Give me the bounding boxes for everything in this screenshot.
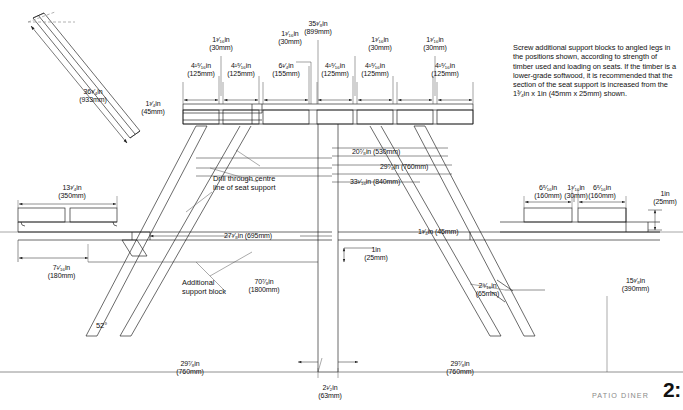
dim-label-diagonal-plank: 36³⁄₄in (933mm) (63, 88, 123, 105)
footer-page-number: 2: (663, 378, 681, 402)
seat-slats-right (500, 208, 660, 232)
dim-label-gap-30-c: 1³⁄₁₆in (30mm) (355, 36, 405, 53)
dim-label-support-block-65: 2⁹⁄₁₆in (65mm) (460, 282, 515, 299)
dim-label-seat-width-350: 13³⁄₄in (350mm) (42, 184, 102, 201)
dim-label-brace-760-mid: 29⁷⁄₈in (760mm) (380, 163, 428, 171)
dim-label-seat-height-390: 15³⁄₈in (390mm) (608, 277, 663, 294)
dim-label-overhang-180: 7¹⁄₁₆in (180mm) (34, 264, 89, 281)
construction-note: Screw additional support blocks to angle… (513, 43, 679, 99)
callout-drill-centre-line: Drill through centre line of seat suppor… (213, 174, 275, 192)
dim-label-25mm-right: 1in (25mm) (645, 190, 683, 207)
angled-leg-left (86, 126, 207, 336)
dim-base-row (0, 358, 683, 378)
dim-label-gap-30-b: 1³⁄₁₆in (30mm) (265, 30, 315, 47)
dim-label-gap-30-d: 1³⁄₁₆in (30mm) (410, 36, 460, 53)
detached-diagonal-plank (28, 12, 140, 138)
seat-slats-left (18, 208, 150, 232)
dim-label-seat-support-45: 1³⁄₄in (45mm) (418, 228, 458, 236)
dim-label-25mm-left: 1in (25mm) (356, 246, 396, 263)
dim-label-brace-840: 33¹⁄₁₆in (840mm) (350, 178, 400, 186)
tabletop-slats (183, 104, 473, 124)
dim-label-slat-125-d: 4¹⁵⁄₁₆in (125mm) (350, 62, 400, 79)
dim-label-base-760-right: 29⁷⁄₈in (760mm) (430, 360, 490, 377)
dim-label-slat-125-e: 4¹⁵⁄₁₆in (125mm) (420, 62, 470, 79)
diagonal-plank-dimension-line (31, 26, 127, 143)
dim-overhang-180 (18, 240, 88, 262)
dim-label-slat-125-b: 4¹⁵⁄₁₆in (125mm) (216, 62, 266, 79)
dim-25mm-right (648, 210, 662, 230)
angled-leg-left-inner (120, 126, 251, 336)
footer-brand: PATIO DINER (592, 391, 649, 400)
angle-label-52: 52° (96, 322, 107, 330)
dim-label-base-760-left: 29⁷⁄₈in (760mm) (160, 360, 220, 377)
dim-label-slat-155: 6¹⁄₄in (155mm) (261, 62, 311, 79)
callout-additional-support-block: Additional support block (182, 278, 226, 296)
dim-label-leg-width-63: 2¹⁄₂in (63mm) (300, 384, 360, 401)
dim-label-top-slat-thickness: 1³⁄₄in (45mm) (128, 100, 178, 117)
callout-leaders (186, 150, 505, 290)
dim-label-leg-spread-1800: 70⁷⁄₈in (1800mm) (234, 278, 294, 295)
dim-label-seat-support-695: 27³⁄₈in (695mm) (224, 232, 272, 240)
centre-leg (318, 124, 338, 372)
seat-support-rail-right (338, 232, 660, 240)
dim-label-seat-slat-160-b: 6⁵⁄₁₆in (160mm) (577, 184, 627, 201)
dim-label-gap-30-a: 1³⁄₁₆in (30mm) (196, 36, 246, 53)
dim-label-brace-530: 20⁷⁄₈in (530mm) (352, 148, 400, 156)
